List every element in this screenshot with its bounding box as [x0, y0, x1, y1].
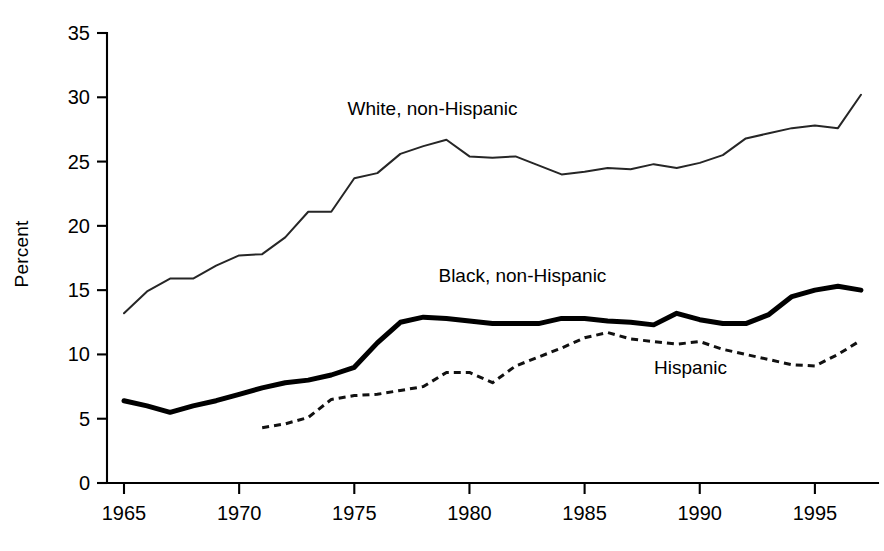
y-tick-label: 5: [79, 408, 90, 430]
x-tick-label: 1995: [793, 502, 838, 524]
y-tick-label: 10: [68, 343, 90, 365]
series-label-hispanic: Hispanic: [654, 357, 727, 378]
x-tick-label: 1970: [217, 502, 262, 524]
y-tick-label: 20: [68, 215, 90, 237]
chart-figure: Percent 05101520253035 19651970197519801…: [0, 0, 884, 551]
y-tick-label: 25: [68, 151, 90, 173]
line-chart-plot: 05101520253035 1965197019751980198519901…: [0, 0, 884, 551]
x-axis-ticks: 1965197019751980198519901995: [102, 483, 837, 524]
series-label-black-non-hispanic: Black, non-Hispanic: [438, 265, 606, 286]
y-axis-ticks: 05101520253035: [68, 22, 107, 494]
y-tick-label: 15: [68, 279, 90, 301]
series-line-black-non-hispanic: [124, 286, 861, 412]
y-tick-label: 35: [68, 22, 90, 44]
x-tick-label: 1985: [562, 502, 607, 524]
series-label-white-non-hispanic: White, non-Hispanic: [348, 98, 518, 119]
y-tick-label: 30: [68, 86, 90, 108]
x-tick-label: 1990: [678, 502, 723, 524]
x-tick-label: 1980: [447, 502, 492, 524]
series-inline-labels: White, non-HispanicBlack, non-HispanicHi…: [348, 98, 727, 377]
data-series-group: [124, 95, 861, 428]
series-line-hispanic: [262, 333, 861, 428]
x-tick-label: 1975: [332, 502, 377, 524]
x-tick-label: 1965: [102, 502, 147, 524]
y-tick-label: 0: [79, 472, 90, 494]
